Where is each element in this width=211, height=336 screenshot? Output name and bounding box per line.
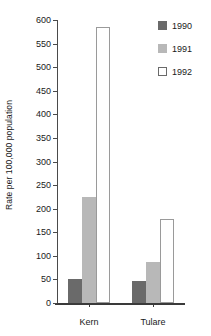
legend-label: 1992 <box>172 67 192 77</box>
legend: 199019911992 <box>158 20 210 89</box>
legend-label: 1991 <box>172 44 192 54</box>
y-axis-title: Rate per 100,000 population <box>0 0 18 310</box>
y-axis-tick-label: 300 <box>36 157 51 167</box>
y-axis-tick-labels: 050100150200250300350400450500550600 <box>18 0 54 336</box>
y-axis-tick-mark <box>53 114 57 115</box>
legend-label: 1990 <box>172 21 192 31</box>
x-axis-category-label: Kern <box>79 317 98 327</box>
y-axis-tick-mark <box>53 44 57 45</box>
y-axis-tick-mark <box>53 185 57 186</box>
y-axis-tick-label: 0 <box>46 298 51 308</box>
bar <box>82 197 96 303</box>
bar <box>96 27 110 303</box>
y-axis-tick-mark <box>53 162 57 163</box>
bar <box>132 281 146 303</box>
y-axis-tick-label: 450 <box>36 86 51 96</box>
y-axis-tick-mark <box>53 138 57 139</box>
y-axis-tick-mark <box>53 279 57 280</box>
y-axis-tick-label: 550 <box>36 39 51 49</box>
y-axis-tick-label: 350 <box>36 133 51 143</box>
bar <box>160 219 174 303</box>
y-axis-tick-label: 50 <box>41 274 51 284</box>
y-axis-tick-label: 250 <box>36 180 51 190</box>
legend-item: 1990 <box>158 20 210 31</box>
y-axis-tick-label: 400 <box>36 109 51 119</box>
y-axis-tick-mark <box>53 232 57 233</box>
y-axis-tick-mark <box>53 67 57 68</box>
y-axis-tick-mark <box>53 209 57 210</box>
y-axis-tick-label: 100 <box>36 251 51 261</box>
legend-swatch-icon <box>158 21 167 30</box>
y-axis-title-label: Rate per 100,000 population <box>4 100 14 210</box>
y-axis-line <box>57 20 58 303</box>
y-axis-tick-label: 150 <box>36 227 51 237</box>
y-axis-tick-mark <box>53 256 57 257</box>
legend-swatch-icon <box>158 67 167 76</box>
x-axis-category-labels: KernTulare <box>57 305 185 325</box>
bar <box>68 279 82 303</box>
y-axis-tick-mark <box>53 303 57 304</box>
legend-item: 1992 <box>158 66 210 77</box>
x-axis-category-label: Tulare <box>140 317 165 327</box>
y-axis-tick-label: 200 <box>36 204 51 214</box>
legend-item: 1991 <box>158 43 210 54</box>
y-axis-tick-mark <box>53 91 57 92</box>
y-axis-tick-mark <box>53 20 57 21</box>
bar <box>146 262 160 303</box>
y-axis-tick-label: 600 <box>36 15 51 25</box>
legend-swatch-icon <box>158 44 167 53</box>
y-axis-tick-label: 500 <box>36 62 51 72</box>
bar-chart: Rate per 100,000 population 050100150200… <box>0 0 211 336</box>
